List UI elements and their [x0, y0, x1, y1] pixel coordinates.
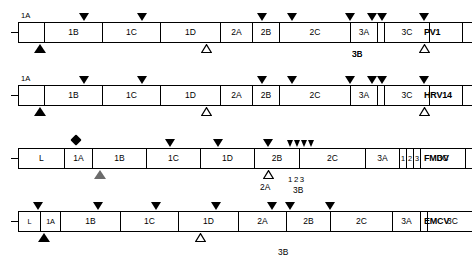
segment-label: 1B: [114, 154, 125, 163]
segment-emcv-1A: 1A: [41, 212, 61, 231]
organism-label-emcv: EMCV: [424, 216, 449, 226]
segment-label: 1B: [68, 28, 79, 37]
segment-pv1-unlabeled-8: [378, 23, 385, 42]
segment-fmdv-L: L: [19, 149, 65, 168]
segment-fmdv-1: 1: [400, 149, 407, 168]
segment-label: 2A: [231, 28, 242, 37]
segment-label: 1C: [144, 217, 155, 226]
segment-label: 1A: [46, 218, 55, 225]
segment-label: 2: [408, 155, 412, 162]
segment-pv1-2C: 2C: [280, 23, 351, 42]
segment-hrv14-2A: 2A: [221, 86, 253, 105]
genome-bar-hrv14: 1B1C1D2A2B2C3A3C3D: [18, 85, 472, 106]
cleavage-marker-up-open: [201, 44, 212, 53]
segment-hrv14-unlabeled-8: [378, 86, 385, 105]
cleavage-marker-diamond: [70, 134, 81, 145]
segment-label: 1D: [185, 91, 196, 100]
segment-fmdv-3A: 3A: [366, 149, 400, 168]
cleavage-marker-down-cluster: [294, 140, 300, 147]
organism-label-hrv14: HRV14: [424, 90, 452, 100]
annotation-2a: 2A: [260, 183, 270, 191]
segment-label: 1D: [222, 154, 233, 163]
cleavage-marker-down: [285, 202, 295, 210]
maturation-marker-up-grey: [94, 170, 106, 179]
cleavage-marker-down-cluster: [287, 140, 293, 147]
segment-fmdv-3D: 3D: [466, 149, 472, 168]
segment-label: 1C: [168, 154, 179, 163]
segment-label: 1C: [126, 91, 137, 100]
genome-bar-pv1: 1B1C1D2A2B2C3A3C3D: [18, 22, 472, 43]
segment-label: 3A: [377, 154, 388, 163]
segment-pv1-3A: 3A: [351, 23, 378, 42]
cleavage-marker-down: [211, 202, 221, 210]
segment-label: 2B: [261, 28, 272, 37]
segment-fmdv-3: 3: [414, 149, 421, 168]
segment-label: 3A: [359, 91, 370, 100]
cleavage-marker-down: [287, 76, 297, 84]
picornavirus-polyprotein-diagram: 1B1C1D2A2B2C3A3C3D1APV13B1B1C1D2A2B2C3A3…: [0, 0, 472, 263]
cleavage-marker-down: [377, 13, 387, 21]
cleavage-marker-down: [151, 202, 161, 210]
segment-emcv-1D: 1D: [179, 212, 239, 231]
segment-emcv-3A: 3A: [393, 212, 421, 231]
segment-emcv-2C: 2C: [331, 212, 393, 231]
cleavage-marker-down-cluster: [308, 140, 314, 147]
cleavage-marker-down: [287, 13, 297, 21]
bar-tick-left-fmdv: [11, 158, 18, 159]
segment-label: L: [39, 154, 44, 163]
cleavage-marker-down: [79, 13, 89, 21]
segment-fmdv-2: 2: [407, 149, 414, 168]
segment-label: 1: [401, 155, 405, 162]
cleavage-marker-down: [263, 139, 273, 147]
segment-emcv-1B: 1B: [61, 212, 121, 231]
cleavage-marker-down: [345, 13, 355, 21]
segment-label: 1B: [85, 217, 96, 226]
cleavage-marker-down: [213, 139, 223, 147]
segment-label: 3: [415, 155, 419, 162]
organism-label-fmdv: FMDV: [424, 153, 449, 163]
maturation-marker-up-solid: [34, 44, 46, 53]
segment-emcv-L: L: [19, 212, 41, 231]
cleavage-marker-down: [377, 76, 387, 84]
segment-pv1-1B: 1B: [45, 23, 103, 42]
segment-label: 2C: [309, 28, 320, 37]
segment-label: 2C: [356, 217, 367, 226]
segment-label: 1D: [203, 217, 214, 226]
segment-emcv-2B: 2B: [287, 212, 331, 231]
maturation-marker-up-solid: [34, 107, 46, 116]
cleavage-marker-down: [257, 76, 267, 84]
bar-tick-left-pv1: [11, 32, 18, 33]
cleavage-marker-down: [325, 202, 335, 210]
cleavage-marker-down: [93, 202, 103, 210]
segment-hrv14-3A: 3A: [351, 86, 378, 105]
cleavage-marker-up-open: [419, 44, 430, 53]
segment-pv1-1D: 1D: [161, 23, 221, 42]
cleavage-marker-down: [419, 76, 429, 84]
segment-label: 2A: [257, 217, 268, 226]
segment-pv1-2B: 2B: [253, 23, 280, 42]
cleavage-marker-down-cluster: [301, 140, 307, 147]
segment-label: 1B: [68, 91, 79, 100]
segment-pv1-1C: 1C: [103, 23, 161, 42]
segment-hrv14-1C: 1C: [103, 86, 161, 105]
genome-bar-emcv: L1A1B1C1D2A2B2C3A3C3D: [18, 211, 472, 232]
segment-fmdv-2B: 2B: [255, 149, 300, 168]
segment-label: 2B: [261, 91, 272, 100]
cleavage-marker-up-open: [195, 233, 206, 242]
cleavage-marker-down: [79, 76, 89, 84]
bar-tick-left-emcv: [11, 221, 18, 222]
segment-pv1-unlabeled-0: [19, 23, 45, 42]
segment-fmdv-2C: 2C: [300, 149, 366, 168]
segment-label: 1D: [185, 28, 196, 37]
cleavage-marker-down: [33, 202, 43, 210]
cleavage-marker-down: [137, 13, 147, 21]
segment-hrv14-unlabeled-0: [19, 86, 45, 105]
segment-hrv14-2C: 2C: [280, 86, 351, 105]
cleavage-marker-up-open: [419, 107, 430, 116]
segment-fmdv-1B: 1B: [93, 149, 147, 168]
segment-fmdv-1C: 1C: [147, 149, 201, 168]
segment-label: 2C: [309, 91, 320, 100]
cleavage-marker-down: [345, 76, 355, 84]
segment-label: 2A: [231, 91, 242, 100]
genome-bar-fmdv: L1A1B1C1D2B2C3A1233C3D: [18, 148, 472, 169]
